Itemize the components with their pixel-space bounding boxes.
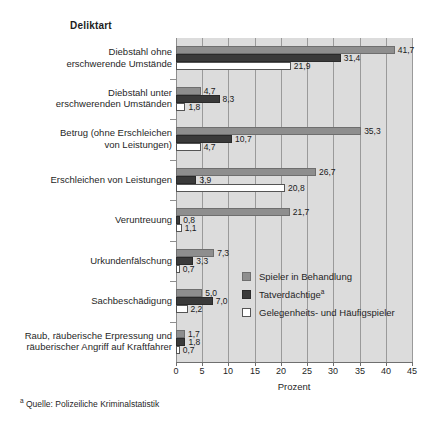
bar (176, 224, 182, 232)
chart-title: Deliktart (0, 20, 182, 31)
bar (176, 103, 185, 111)
legend-label: Spieler in Behandlung (259, 271, 352, 282)
bar-value-label: 7,0 (216, 296, 228, 306)
x-tick-label: 45 (407, 366, 417, 376)
category-label: Sachbeschädigung (2, 295, 172, 307)
footnote-marker: a (20, 397, 24, 404)
x-tick-label: 15 (250, 366, 260, 376)
category-label-line: Diebstahl unter (2, 87, 172, 99)
chart-footnote: a Quelle: Polizeiliche Kriminalstatistik (20, 397, 159, 409)
x-axis-title: Prozent (176, 381, 412, 392)
bar (176, 305, 188, 313)
bar-value-label: 21,7 (293, 207, 310, 217)
x-tick-label: 10 (223, 366, 233, 376)
bar-value-label: 2,2 (191, 304, 203, 314)
gridline-45 (412, 38, 413, 362)
plot-area: 41,731,421,94,78,31,835,310,74,726,73,92… (176, 38, 412, 362)
x-axis-line (176, 362, 412, 363)
bar (176, 289, 202, 297)
bar (176, 143, 201, 151)
bar-value-label: 26,7 (319, 167, 336, 177)
x-tick-label: 30 (328, 366, 338, 376)
chart-legend: Spieler in BehandlungTatverdächtigeaGele… (242, 267, 395, 321)
bar (176, 62, 291, 70)
bar-value-label: 1,1 (185, 223, 197, 233)
row-separator (170, 322, 176, 323)
row-separator (170, 119, 176, 120)
category-label-line: räuberischer Angriff auf Kraftfahrer (2, 341, 172, 353)
bar (176, 184, 285, 192)
x-tick-label: 20 (276, 366, 286, 376)
bar-value-label: 21,9 (294, 61, 311, 71)
category-label: Diebstahl untererschwerenden Umständen (2, 87, 172, 110)
category-label-line: Erschleichen von Leistungen (2, 174, 172, 186)
bar (176, 127, 361, 135)
category-label: Veruntreuung (2, 214, 172, 226)
bar-value-label: 10,7 (235, 134, 252, 144)
legend-label: Tatverdächtigea (259, 288, 324, 300)
category-label: Raub, räuberische Erpressung undräuberis… (2, 330, 172, 353)
bar-value-label: 4,7 (204, 142, 216, 152)
category-label-line: erschwerende Umstände (2, 58, 172, 70)
bar (176, 168, 316, 176)
x-tick-label: 5 (199, 366, 204, 376)
bar (176, 265, 180, 273)
category-label-line: Diebstahl ohne (2, 46, 172, 58)
bar-value-label: 0,7 (183, 345, 195, 355)
row-separator (170, 281, 176, 282)
x-tick-label: 0 (173, 366, 178, 376)
legend-footnote-marker: a (321, 288, 325, 295)
category-label: Erschleichen von Leistungen (2, 174, 172, 186)
x-tick-label: 35 (355, 366, 365, 376)
bar-value-label: 3,3 (196, 256, 208, 266)
bar (176, 216, 180, 224)
category-label-line: Sachbeschädigung (2, 295, 172, 307)
category-label-line: Veruntreuung (2, 214, 172, 226)
bar (176, 176, 196, 184)
bar-value-label: 0,7 (183, 264, 195, 274)
bar-value-label: 31,4 (344, 53, 361, 63)
bar (176, 330, 185, 338)
gridline-10 (228, 38, 229, 362)
bar-value-label: 35,3 (364, 126, 381, 136)
x-tick-label: 25 (302, 366, 312, 376)
bar-value-label: 1,8 (188, 102, 200, 112)
bar (176, 87, 201, 95)
bar-value-label: 41,7 (398, 45, 415, 55)
x-tick-label: 40 (381, 366, 391, 376)
bar (176, 54, 341, 62)
row-separator (170, 160, 176, 161)
legend-label: Gelegenheits- und Häufigspieler (259, 307, 395, 318)
category-label-line: Raub, räuberische Erpressung und (2, 330, 172, 342)
category-label: Betrug (ohne Erschleichenvon Leistungen) (2, 127, 172, 150)
row-separator (170, 79, 176, 80)
category-label-line: Urkundenfälschung (2, 255, 172, 267)
legend-swatch-icon (242, 308, 251, 317)
bar-value-label: 8,3 (223, 94, 235, 104)
bar-value-label: 20,8 (288, 183, 305, 193)
footnote-text: Quelle: Polizeiliche Kriminalstatistik (26, 399, 159, 409)
category-label-line: Betrug (ohne Erschleichen (2, 127, 172, 139)
legend-item[interactable]: Spieler in Behandlung (242, 267, 395, 285)
bar (176, 46, 395, 54)
legend-item[interactable]: Tatverdächtigea (242, 285, 395, 303)
category-label-line: erschwerenden Umständen (2, 98, 172, 110)
bar (176, 249, 214, 257)
legend-item[interactable]: Gelegenheits- und Häufigspieler (242, 303, 395, 321)
category-label: Urkundenfälschung (2, 255, 172, 267)
category-label: Diebstahl ohneerschwerende Umstände (2, 46, 172, 69)
legend-swatch-icon (242, 290, 251, 299)
legend-swatch-icon (242, 272, 251, 281)
category-label-line: von Leistungen) (2, 139, 172, 151)
bar (176, 346, 180, 354)
row-separator (170, 241, 176, 242)
bar-value-label: 7,3 (217, 248, 229, 258)
row-separator (170, 200, 176, 201)
